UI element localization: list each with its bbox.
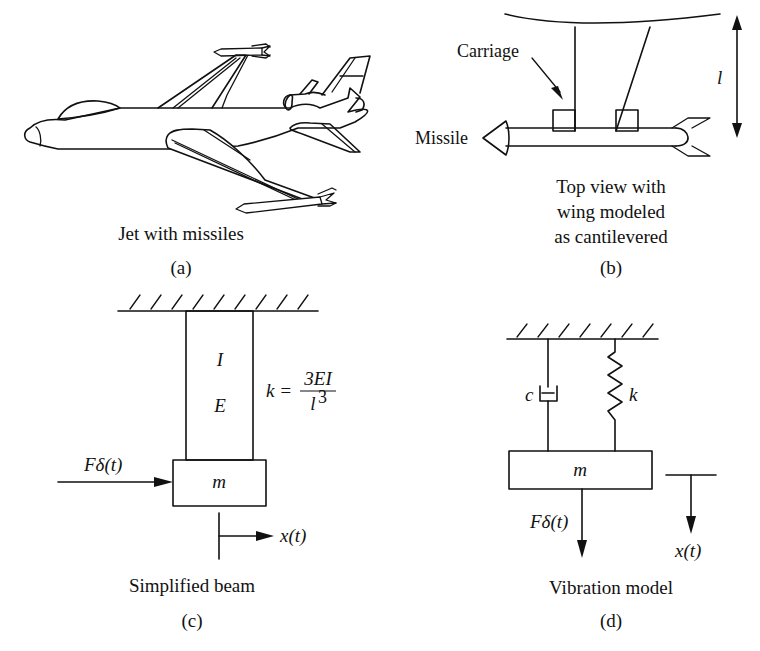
panel-c-tag: (c) [181, 610, 202, 632]
far-wing [158, 55, 248, 108]
length-dimension-arrow [732, 15, 742, 138]
panel-d-tag: (d) [600, 610, 622, 632]
stiffness-formula: k = 3EI l 3 [266, 368, 336, 414]
displacement-arrow [666, 475, 716, 534]
tail-section [284, 56, 370, 152]
force-label: Fδ(t) [529, 511, 568, 533]
panel-a-jet-drawing [25, 44, 370, 213]
panel-d-caption: Vibration model [549, 577, 673, 598]
mass-label: m [212, 471, 226, 492]
force-arrow [58, 477, 173, 487]
damper [540, 339, 557, 451]
wing-tip-edge [616, 27, 650, 131]
carriage-label: Carriage [457, 41, 519, 61]
inertia-label: I [216, 349, 225, 370]
fuselage-edge [505, 14, 720, 23]
panel-a-caption: Jet with missiles [118, 223, 244, 244]
fixed-support [118, 295, 318, 311]
spring [608, 339, 622, 451]
panel-b-caption-line3: as cantilevered [554, 226, 668, 247]
missile-label: Missile [415, 128, 468, 148]
modulus-label: E [213, 395, 226, 416]
force-label: Fδ(t) [83, 454, 122, 476]
panel-c-beam [58, 295, 318, 559]
near-wing [166, 129, 320, 202]
panel-b-tag: (b) [600, 257, 622, 279]
stiffness-numerator: 3EI [303, 368, 333, 389]
beam [186, 311, 253, 460]
panel-b-top-view [483, 14, 742, 156]
carriage-arrow [532, 58, 563, 100]
missile-body [483, 118, 710, 156]
panel-b-caption-line2: wing modeled [557, 201, 666, 222]
upper-missile [214, 44, 270, 58]
damper-label: c [525, 384, 534, 405]
panel-b-caption-line1: Top view with [556, 176, 666, 197]
panel-c-caption: Simplified beam [129, 575, 255, 596]
mass-label: m [573, 459, 587, 480]
fixed-support [507, 324, 658, 339]
spring-label: k [629, 384, 638, 405]
displacement-label: x(t) [674, 540, 701, 562]
panel-a-tag: (a) [170, 257, 191, 279]
stiffness-denominator: l [310, 393, 315, 414]
stiffness-denominator-exponent: 3 [318, 387, 327, 407]
length-label: l [717, 67, 722, 88]
displacement-arrow [219, 513, 274, 559]
figure: Jet with missiles (a) Carriage M [0, 0, 760, 651]
stiffness-lhs: k = [266, 380, 292, 401]
displacement-label: x(t) [279, 525, 306, 547]
force-arrow [577, 489, 587, 558]
